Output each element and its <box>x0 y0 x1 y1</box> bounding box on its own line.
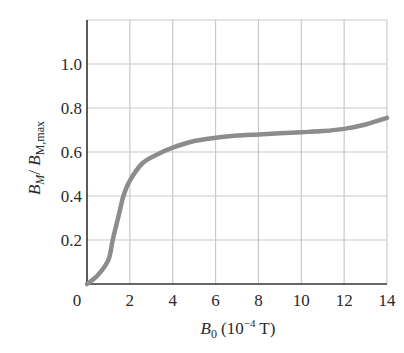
x-axis-label: B0(10−4 T) <box>201 317 276 341</box>
x-tick-label: 12 <box>336 291 353 310</box>
y-tick-label: 0.8 <box>61 99 82 118</box>
y-tick-labels: 0.20.40.60.81.0 <box>61 55 83 250</box>
y-tick-label: 0.2 <box>61 231 82 250</box>
x-tick-label: 10 <box>293 291 310 310</box>
x-tick-label: 8 <box>254 291 263 310</box>
x-tick-labels: 02468101214 <box>73 291 396 310</box>
x-tick-label: 6 <box>211 291 220 310</box>
x-tick-label: 4 <box>168 291 177 310</box>
y-tick-label: 0.4 <box>61 187 83 206</box>
x-tick-label: 0 <box>73 291 82 310</box>
x-tick-label: 2 <box>126 291 135 310</box>
x-tick-label: 14 <box>379 291 397 310</box>
grid-lines <box>87 20 387 284</box>
y-tick-label: 0.6 <box>61 143 82 162</box>
y-tick-label: 1.0 <box>61 55 82 74</box>
chart: 02468101214 0.20.40.60.81.0 B0(10−4 T) B… <box>0 0 404 353</box>
data-curve <box>87 118 387 284</box>
y-axis-label: BM/ BM,max <box>25 121 47 195</box>
